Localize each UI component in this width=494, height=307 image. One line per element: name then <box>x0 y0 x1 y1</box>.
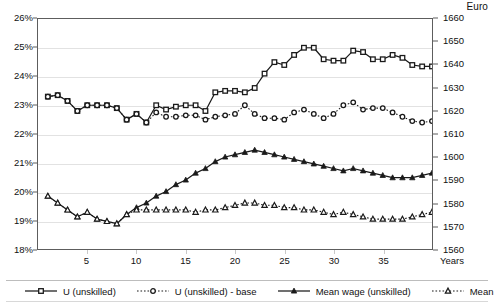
right-axis-tick-label: 1650 <box>443 36 464 46</box>
data-point-marker <box>163 207 168 212</box>
legend-swatch <box>136 286 170 296</box>
data-point-marker <box>400 114 405 119</box>
data-point-marker <box>164 114 169 119</box>
data-point-marker <box>410 214 415 219</box>
right-axis-tick-mark <box>433 41 438 42</box>
legend-label: U (unskilled) <box>63 286 116 297</box>
legend-swatch <box>431 286 465 296</box>
data-point-marker <box>341 103 346 108</box>
data-point-marker <box>144 200 149 205</box>
legend-swatch <box>277 286 311 296</box>
legend-item[interactable]: Mean wage (unskilled) - base <box>431 286 494 297</box>
x-axis: 5101520253035 <box>37 250 433 270</box>
data-point-marker <box>243 90 248 95</box>
data-point-marker <box>174 114 179 119</box>
data-point-marker <box>341 58 346 63</box>
data-point-marker <box>203 109 208 114</box>
data-point-marker <box>252 200 257 205</box>
data-point-marker <box>154 103 159 108</box>
left-axis-tick-label: 26% <box>14 13 33 23</box>
data-point-marker <box>242 200 247 205</box>
data-point-marker <box>390 110 395 115</box>
right-axis-tick-mark <box>433 18 438 19</box>
data-point-marker <box>134 112 139 117</box>
data-point-marker <box>203 166 208 171</box>
data-point-marker <box>262 202 267 207</box>
legend-label: Mean wage (unskilled) <box>316 286 411 297</box>
legend-swatch <box>24 286 58 296</box>
x-axis-tick-label: 30 <box>329 256 340 266</box>
data-point-marker <box>55 93 60 98</box>
data-point-marker <box>380 216 385 221</box>
data-point-marker <box>371 106 376 111</box>
x-axis-tick-mark <box>235 250 236 254</box>
data-point-marker <box>262 116 267 121</box>
data-point-marker <box>341 209 346 214</box>
data-point-marker <box>154 110 159 115</box>
data-point-marker <box>400 216 405 221</box>
data-point-marker <box>302 45 307 50</box>
x-axis-tick-label: 20 <box>230 256 241 266</box>
data-point-marker <box>223 113 228 118</box>
x-axis-tick-mark <box>334 250 335 254</box>
x-axis-title: Years <box>440 256 464 266</box>
data-point-marker <box>46 94 51 99</box>
data-point-marker <box>233 89 238 94</box>
x-axis-tick-label: 5 <box>84 256 89 266</box>
data-point-marker <box>39 289 44 294</box>
series-1 <box>46 93 432 125</box>
data-point-marker <box>262 71 267 76</box>
left-axis-tick-label: 24% <box>14 71 33 81</box>
data-point-marker <box>420 64 425 69</box>
data-point-marker <box>124 212 129 217</box>
data-point-marker <box>85 209 90 214</box>
data-point-marker <box>302 107 307 112</box>
x-axis-tick-mark <box>186 250 187 254</box>
data-point-marker <box>429 170 432 175</box>
data-point-marker <box>252 147 257 152</box>
right-axis-tick-label: 1560 <box>443 245 464 255</box>
data-point-marker <box>144 120 149 125</box>
legend-item[interactable]: Mean wage (unskilled) <box>277 286 411 297</box>
data-point-marker <box>410 119 415 124</box>
data-point-marker <box>232 202 237 207</box>
legend-item[interactable]: U (unskilled) <box>24 286 116 297</box>
plot-inner <box>38 19 432 249</box>
data-point-marker <box>331 112 336 117</box>
right-axis-tick-label: 1640 <box>443 59 464 69</box>
right-axis-title: Euro <box>466 1 488 12</box>
x-axis-tick-label: 35 <box>378 256 389 266</box>
data-point-marker <box>351 48 356 53</box>
data-point-marker <box>321 209 326 214</box>
left-axis-tick-label: 23% <box>14 100 33 110</box>
data-point-marker <box>360 214 365 219</box>
series-layer <box>38 19 432 249</box>
left-axis-tick-label: 19% <box>14 216 33 226</box>
series-0 <box>46 45 432 124</box>
right-axis-tick-label: 1610 <box>443 129 464 139</box>
data-point-marker <box>361 50 366 55</box>
data-point-marker <box>105 103 110 108</box>
data-point-marker <box>312 45 317 50</box>
data-point-marker <box>361 107 366 112</box>
data-point-marker <box>183 113 188 118</box>
data-point-marker <box>380 106 385 111</box>
data-point-marker <box>272 116 277 121</box>
data-point-marker <box>390 53 395 58</box>
left-axis-tick-label: 22% <box>14 129 33 139</box>
data-point-marker <box>222 205 227 210</box>
left-axis-tick-label: 25% <box>14 42 33 52</box>
data-point-marker <box>85 103 90 108</box>
data-point-marker <box>163 189 168 194</box>
data-point-marker <box>430 119 432 124</box>
x-axis-tick-mark <box>87 250 88 254</box>
left-axis-tick-label: 20% <box>14 187 33 197</box>
data-point-marker <box>183 177 188 182</box>
legend-label: U (unskilled) - base <box>175 286 257 297</box>
data-point-marker <box>321 116 326 121</box>
legend-item[interactable]: U (unskilled) - base <box>136 286 257 297</box>
right-axis-tick-mark <box>433 226 438 227</box>
data-point-marker <box>371 57 376 62</box>
data-point-marker <box>291 205 296 210</box>
data-point-marker <box>223 89 228 94</box>
